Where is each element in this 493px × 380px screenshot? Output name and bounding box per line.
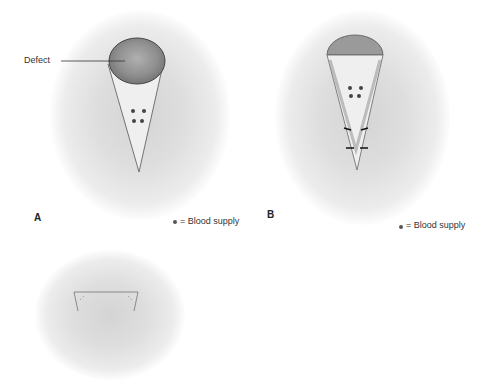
blood-supply-dot-a [173, 220, 177, 224]
blood-supply-dot-b [399, 225, 403, 229]
panel-a-flap [61, 38, 165, 172]
panel-b-flap [327, 35, 383, 170]
panel-a-letter: A [34, 212, 41, 223]
panel-a-legend: = Blood supply [180, 216, 239, 226]
panel-c-flap [74, 292, 138, 311]
defect-label: Defect [24, 55, 50, 65]
panel-b-legend: = Blood supply [406, 220, 465, 230]
panel-b-letter: B [267, 209, 274, 220]
